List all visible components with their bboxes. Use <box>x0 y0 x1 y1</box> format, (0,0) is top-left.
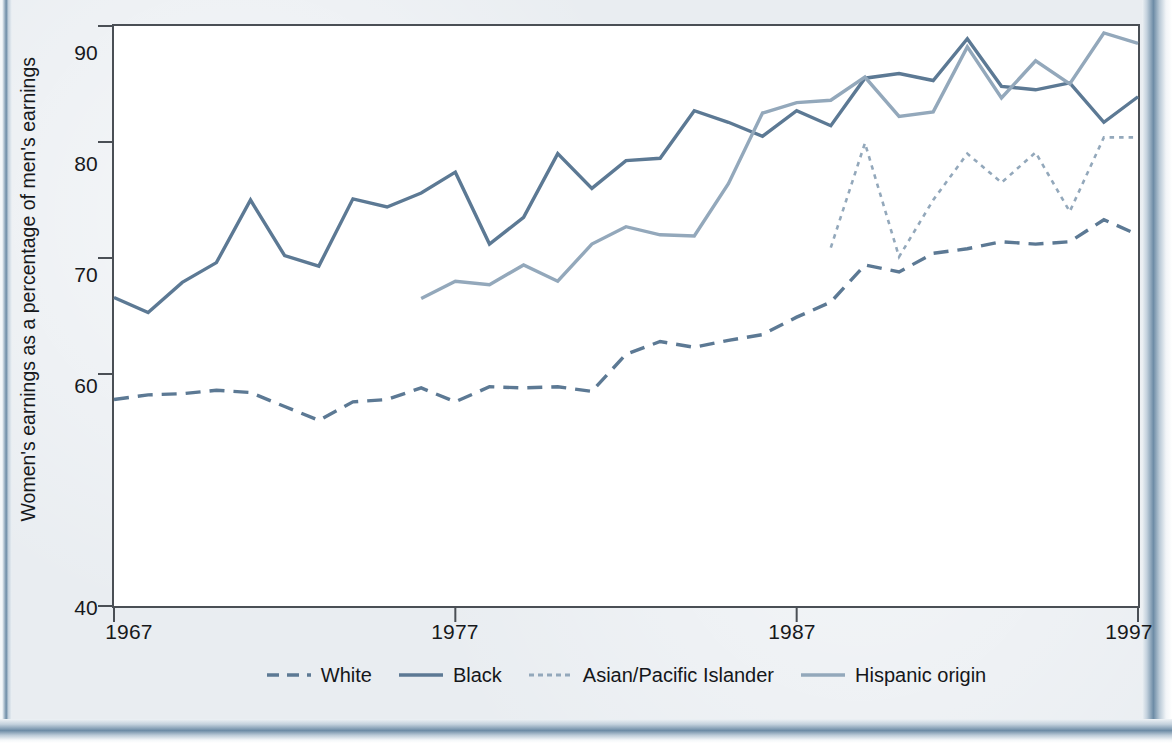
series-lines <box>114 33 1138 420</box>
legend-label-black: Black <box>453 664 502 687</box>
series-line-white <box>114 220 1138 421</box>
y-tick-label-90: 90 <box>52 41 98 65</box>
solid-line-swatch-light <box>800 668 846 682</box>
dashed-line-swatch <box>266 668 312 682</box>
legend-item-black: Black <box>398 664 502 687</box>
x-tick-label-1977: 1977 <box>410 620 500 644</box>
x-tick-label-1997: 1997 <box>1084 620 1172 644</box>
solid-line-swatch <box>398 668 444 682</box>
legend-item-white: White <box>266 664 372 687</box>
x-tick-label-1967: 1967 <box>84 620 174 644</box>
x-tick-label-1987: 1987 <box>747 620 837 644</box>
axis-tickmarks <box>98 26 1138 622</box>
series-line-asian-pacific-islander <box>831 137 1138 256</box>
legend-label-white: White <box>321 664 372 687</box>
chart-canvas <box>0 0 1172 743</box>
y-tick-label-60: 60 <box>52 374 98 398</box>
legend-label-asian-pacific-islander: Asian/Pacific Islander <box>583 664 774 687</box>
legend-item-asian-pacific-islander: Asian/Pacific Islander <box>528 664 774 687</box>
legend-item-hispanic-origin: Hispanic origin <box>800 664 986 687</box>
page-frame: Women's earnings as a percentage of men'… <box>0 0 1172 743</box>
line-chart-figure: Women's earnings as a percentage of men'… <box>0 0 1172 743</box>
chart-legend: White Black Asian/Pacific Islander Hispa… <box>112 658 1140 692</box>
series-line-hispanic-origin <box>421 33 1138 299</box>
series-line-black <box>114 39 1138 313</box>
y-tick-label-40: 40 <box>52 596 98 620</box>
y-tick-label-80: 80 <box>52 152 98 176</box>
dotted-line-swatch <box>528 668 574 682</box>
y-tick-label-70: 70 <box>52 263 98 287</box>
legend-label-hispanic-origin: Hispanic origin <box>855 664 986 687</box>
